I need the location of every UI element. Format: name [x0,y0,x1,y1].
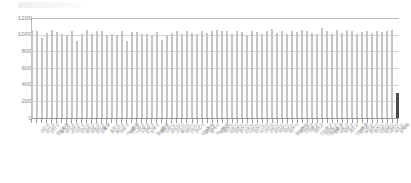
bar [261,34,263,118]
bar [101,31,103,118]
bar [66,35,68,119]
bar [146,34,148,118]
bar [286,34,288,118]
bar [376,31,378,118]
bar [171,33,173,118]
y-axis-tick-label: 1200 [2,15,32,21]
bar [116,35,118,118]
bar [106,35,108,118]
bar [231,34,233,118]
bar [81,34,83,118]
bar [361,32,363,118]
bar [46,33,48,118]
bar [341,33,343,118]
bar [326,31,328,118]
bar [221,31,223,118]
y-axis-tick-label: 400 [2,81,32,87]
bar [236,31,238,118]
bar [396,93,399,118]
bar [251,31,253,118]
bar [356,34,358,118]
bar [316,34,318,119]
bar [56,32,58,118]
bar [216,30,218,118]
bar [91,34,93,118]
bar [161,40,163,118]
bar [381,32,383,118]
bar [126,41,128,119]
bar [256,32,258,118]
x-axis-tick-labels: 구로구강서구양천구영등포구동작구관악구금천구서초구강남구송파구강동구광진구성동구… [31,123,399,181]
bar [311,33,313,118]
bar [36,31,38,118]
bar [31,30,33,118]
bar [151,35,153,118]
bar-series [31,18,399,118]
y-axis-tick-label: 0 [2,115,32,121]
bar [176,31,178,118]
corner-artifact [18,2,82,8]
bar [226,31,228,119]
bar [336,30,338,118]
bar [366,31,368,119]
bar [41,38,43,118]
bar [166,35,168,119]
bar [271,29,273,118]
bar [86,30,88,118]
bar [136,32,138,119]
y-axis-tick-label: 600 [2,65,32,71]
bar [351,31,353,118]
bar [241,32,243,119]
bar [181,34,183,119]
bar [211,31,213,118]
bar [121,31,123,118]
bar [186,31,188,119]
bar [131,32,133,118]
bar [156,32,158,118]
bar [71,31,73,118]
bar [321,28,323,118]
bar [266,31,268,118]
y-axis-tick-label: 200 [2,98,32,104]
bar [111,34,113,118]
y-axis-tick-label: 1000 [2,31,32,37]
bar [141,34,143,118]
bar [196,34,198,118]
bar [281,31,283,119]
bar [306,31,308,118]
bar [96,31,98,118]
bar [61,34,63,118]
bar [291,31,293,118]
bar [206,33,208,118]
bar [331,34,333,118]
bar [201,31,203,118]
bar [76,41,78,119]
bar [391,30,393,118]
bar [246,35,248,118]
bar [296,32,298,118]
bar [51,30,53,119]
bar [346,30,348,118]
bar [191,33,193,119]
bar [386,31,388,118]
y-axis-tick-label: 800 [2,48,32,54]
bar [301,30,303,118]
bar [276,33,278,118]
bar [371,33,373,118]
